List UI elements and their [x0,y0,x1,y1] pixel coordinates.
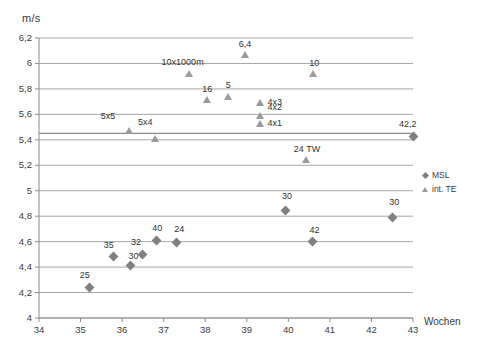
data-point-triangle[interactable] [241,51,249,58]
data-point-label: 32 [131,237,141,247]
x-axis-tick-label: 40 [276,324,300,335]
x-axis-tick-label: 39 [235,324,259,335]
data-point-label: 42,2 [399,119,417,129]
data-point-triangle[interactable] [203,96,211,103]
data-point-label: 42 [309,225,319,235]
x-axis-tick-label: 35 [69,324,93,335]
data-point-label: 30 [128,251,138,261]
y-axis-tick-label: 4,6 [2,236,32,247]
x-axis-tick-label: 36 [110,324,134,335]
data-point-triangle[interactable] [151,135,159,142]
y-axis-tick-label: 5,2 [2,159,32,170]
x-axis-tick-label: 38 [193,324,217,335]
y-axis-tick-label: 5,4 [2,134,32,145]
data-point-triangle[interactable] [256,99,264,106]
data-point-label: 5x4 [138,117,153,127]
data-point-label: 25 [80,270,90,280]
y-axis-tick-label: 5,6 [2,108,32,119]
x-axis-tick-label: 37 [152,324,176,335]
data-point-label: 5 [226,80,231,90]
legend-label: MSL [432,170,449,180]
triangle-icon [421,185,429,193]
data-point-label: 35 [104,240,114,250]
y-axis-tick-label: 6,2 [2,32,32,43]
y-axis-tick-label: 5,8 [2,83,32,94]
y-axis-tick-label: 4,8 [2,210,32,221]
diamond-icon [421,171,429,179]
chart-legend: MSLint. TE [421,168,456,196]
x-axis-tick-label: 43 [401,324,425,335]
data-point-triangle[interactable] [309,70,317,77]
data-point-label: 30 [282,191,292,201]
y-axis-tick-label: 6 [2,57,32,68]
data-point-label: 5x5 [101,111,116,121]
x-axis-tick-label: 41 [318,324,342,335]
scatter-chart: m/s Wochen 44,24,44,64,855,25,45,65,866,… [0,0,477,355]
data-point-triangle[interactable] [302,156,310,163]
data-point-label: 10 [309,58,319,68]
data-point-triangle[interactable] [256,112,264,119]
data-point-triangle[interactable] [185,70,193,77]
legend-label: int. TE [432,184,456,194]
data-point-label: 24 [174,224,184,234]
y-axis-tick-label: 4,4 [2,261,32,272]
data-point-label: 4x2 [267,102,282,112]
plot-area [0,0,477,355]
data-point-label: 30 [389,197,399,207]
y-axis-tick-label: 4,2 [2,287,32,298]
data-point-triangle[interactable] [256,120,264,127]
y-axis-tick-label: 4 [2,312,32,323]
data-point-label: 24 TW [294,144,320,154]
x-axis-tick-label: 34 [27,324,51,335]
y-axis-tick-label: 5 [2,185,32,196]
x-axis-tick-label: 42 [359,324,383,335]
data-point-label: 6,4 [239,39,252,49]
data-point-label: 16 [202,84,212,94]
data-point-triangle[interactable] [224,93,232,100]
data-point-label: 4x1 [267,118,282,128]
data-point-triangle[interactable] [125,127,133,134]
legend-item-intte[interactable]: int. TE [421,182,456,196]
data-point-label: 10x1000m [162,57,204,67]
legend-item-msl[interactable]: MSL [421,168,456,182]
data-point-label: 40 [152,223,162,233]
